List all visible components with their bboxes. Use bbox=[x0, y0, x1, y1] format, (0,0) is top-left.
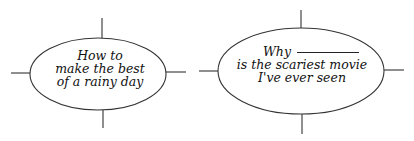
fill-in-blank-line[interactable] bbox=[297, 52, 359, 53]
topic-left-line-3: of a rainy day bbox=[38, 75, 162, 88]
topic-label-right: Why is the scariest movie I've ever seen bbox=[222, 45, 382, 84]
topic-right-line-3: I've ever seen bbox=[222, 71, 382, 84]
topic-label-left: How to make the best of a rainy day bbox=[38, 49, 162, 88]
